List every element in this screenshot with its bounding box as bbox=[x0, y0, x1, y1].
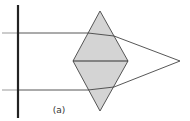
arrow-icon bbox=[145, 73, 149, 74]
figure-label: (a) bbox=[53, 105, 66, 115]
biprism-diagram: (a) bbox=[0, 0, 190, 121]
